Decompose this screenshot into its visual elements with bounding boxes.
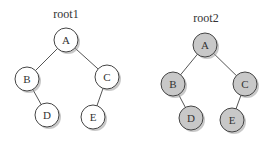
node-label: D: [187, 112, 195, 124]
tree-node-E: E: [220, 108, 246, 134]
node-label: C: [103, 71, 110, 83]
node-label: B: [169, 78, 176, 90]
tree-node-D: D: [179, 106, 205, 132]
node-label: A: [201, 39, 209, 51]
tree-node-D: D: [35, 103, 61, 129]
node-label: E: [90, 111, 97, 123]
tree-root2: root2ABCDE: [161, 11, 259, 134]
node-label: D: [43, 109, 51, 121]
tree-node-C: C: [233, 72, 259, 98]
tree-node-C: C: [95, 65, 121, 91]
tree-node-A: A: [54, 28, 80, 54]
node-label: A: [62, 34, 70, 46]
root-label: root2: [193, 11, 218, 25]
tree-node-E: E: [81, 105, 107, 131]
node-label: E: [229, 114, 236, 126]
root-label: root1: [53, 7, 78, 21]
binary-trees-diagram: root1ABCDE root2ABCDE: [0, 0, 273, 141]
tree-node-B: B: [161, 72, 187, 98]
tree-root1: root1ABCDE: [15, 7, 121, 131]
tree-node-B: B: [15, 67, 41, 93]
node-label: B: [23, 73, 30, 85]
node-label: C: [241, 78, 248, 90]
